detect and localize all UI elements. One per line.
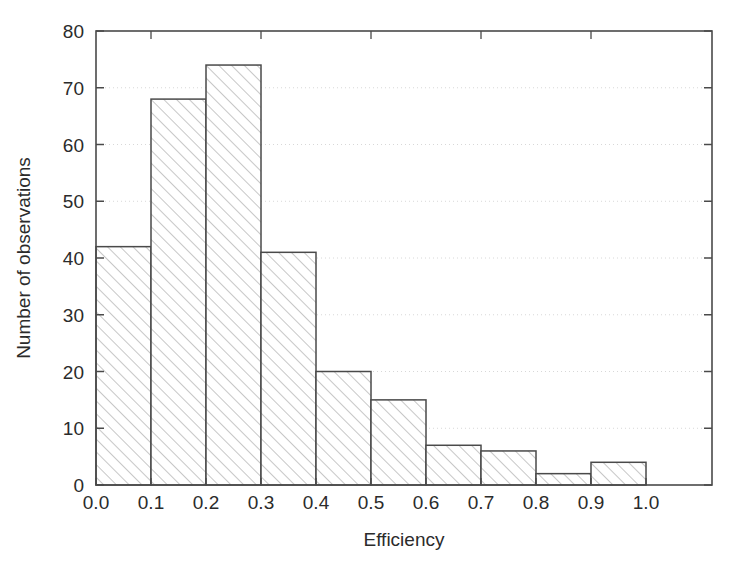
- x-tick-label-0.5: 0.5: [358, 492, 384, 513]
- bar-0.1-0.2: [151, 99, 206, 485]
- histogram-bar: [536, 474, 591, 485]
- y-tick-label-50: 50: [63, 191, 84, 212]
- y-axis-title: Number of observations: [13, 157, 34, 359]
- histogram-bar: [261, 252, 316, 485]
- x-tick-label-0.7: 0.7: [468, 492, 494, 513]
- bar-0.2-0.3: [206, 65, 261, 485]
- histogram-bar: [591, 462, 646, 485]
- histogram-bar: [481, 451, 536, 485]
- histogram-bar: [316, 372, 371, 486]
- x-axis-tick-labels: 0.00.10.20.30.40.50.60.70.80.91.0: [83, 492, 659, 513]
- y-tick-label-80: 80: [63, 21, 84, 42]
- y-tick-label-30: 30: [63, 305, 84, 326]
- bar-0.9-1.0: [591, 462, 646, 485]
- y-axis-tick-labels: 01020304050607080: [63, 21, 84, 496]
- bar-0.6-0.7: [426, 445, 481, 485]
- histogram-bar: [96, 247, 151, 485]
- y-tick-label-70: 70: [63, 78, 84, 99]
- bar-0.0-0.1: [96, 247, 151, 485]
- x-tick-label-0.1: 0.1: [138, 492, 164, 513]
- bar-0.3-0.4: [261, 252, 316, 485]
- x-tick-label-0.6: 0.6: [413, 492, 439, 513]
- bar-0.5-0.6: [371, 400, 426, 485]
- x-tick-label-0.2: 0.2: [193, 492, 219, 513]
- histogram-figure: 01020304050607080 0.00.10.20.30.40.50.60…: [0, 0, 733, 574]
- bar-0.7-0.8: [481, 451, 536, 485]
- y-tick-label-20: 20: [63, 362, 84, 383]
- bar-0.4-0.5: [316, 372, 371, 486]
- x-tick-label-1.0: 1.0: [633, 492, 659, 513]
- y-tick-label-10: 10: [63, 418, 84, 439]
- histogram-bar: [371, 400, 426, 485]
- histogram-bar: [426, 445, 481, 485]
- y-tick-label-40: 40: [63, 248, 84, 269]
- chart-canvas: 01020304050607080 0.00.10.20.30.40.50.60…: [0, 0, 733, 574]
- y-tick-label-60: 60: [63, 135, 84, 156]
- histogram-bar: [206, 65, 261, 485]
- x-tick-label-0.9: 0.9: [578, 492, 604, 513]
- x-tick-label-0.8: 0.8: [523, 492, 549, 513]
- x-tick-label-0.0: 0.0: [83, 492, 109, 513]
- x-tick-label-0.3: 0.3: [248, 492, 274, 513]
- x-axis-title: Efficiency: [364, 529, 445, 550]
- histogram-bar: [151, 99, 206, 485]
- bar-0.8-0.9: [536, 474, 591, 485]
- x-tick-label-0.4: 0.4: [303, 492, 330, 513]
